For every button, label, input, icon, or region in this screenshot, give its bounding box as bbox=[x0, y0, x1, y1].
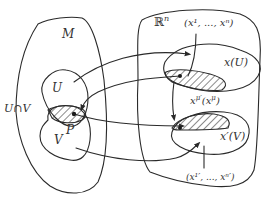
intersection-hatched-region bbox=[48, 106, 86, 123]
image-xu-hatched-region bbox=[165, 70, 225, 91]
label-m: M bbox=[61, 27, 75, 41]
point-p-dot bbox=[72, 112, 76, 116]
label-u: U bbox=[52, 81, 63, 95]
label-coords-bottom: (x¹′, ..., xⁿ′) bbox=[186, 172, 235, 182]
arrow-xu-to-u bbox=[82, 76, 180, 108]
point-xp-dot bbox=[178, 74, 182, 78]
manifold-chart-diagram: M U U∩V P V ℝn (x¹, ..., xⁿ) x(U) xμ′(xμ… bbox=[0, 0, 276, 206]
label-xu: x(U) bbox=[224, 56, 248, 69]
label-coords-top: (x¹, ..., xⁿ) bbox=[184, 17, 233, 28]
label-p: P bbox=[65, 123, 75, 137]
point-xpp-dot bbox=[178, 126, 182, 130]
label-xpv: x′(V) bbox=[220, 130, 245, 143]
arrow-p-to-xpv bbox=[74, 114, 182, 126]
label-intersection: U∩V bbox=[4, 102, 31, 115]
label-rn: ℝn bbox=[154, 14, 169, 29]
label-transition: xμ′(xμ) bbox=[190, 94, 220, 106]
label-v: V bbox=[54, 133, 64, 147]
arrow-transition bbox=[173, 82, 175, 118]
